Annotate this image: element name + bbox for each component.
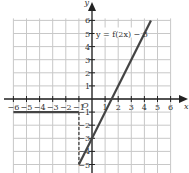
plot-area: −6−5−4−3−2−1123456654321−1−2−3−4−5xyOy =… (0, 0, 189, 173)
y-tick-label: 3 (85, 56, 90, 65)
y-axis-label: y (83, 0, 89, 7)
y-tick-label: 1 (85, 82, 90, 91)
y-axis-arrow-icon (88, 2, 96, 11)
origin-label: O (82, 101, 89, 110)
function-annotation: y = f(2x) − 3 (95, 30, 148, 39)
y-tick-label: 2 (85, 69, 90, 78)
x-tick-label: 6 (168, 103, 173, 112)
x-tick-label: 4 (142, 103, 147, 112)
x-tick-label: −5 (21, 103, 33, 112)
y-tick-label: 5 (85, 30, 90, 39)
y-tick-label: 4 (85, 43, 90, 52)
x-axis-label: x (184, 102, 189, 111)
x-tick-label: 3 (129, 103, 134, 112)
y-tick-label: −2 (78, 121, 90, 130)
y-tick-label: 6 (85, 16, 90, 25)
x-tick-label: 2 (116, 103, 121, 112)
chart: −6−5−4−3−2−1123456654321−1−2−3−4−5xyOy =… (0, 0, 189, 173)
x-tick-label: −6 (8, 103, 20, 112)
x-tick-label: −3 (47, 103, 59, 112)
x-tick-label: −4 (34, 103, 46, 112)
y-tick-label: −3 (78, 134, 90, 143)
x-tick-label: 5 (155, 103, 160, 112)
x-tick-label: −2 (60, 103, 72, 112)
